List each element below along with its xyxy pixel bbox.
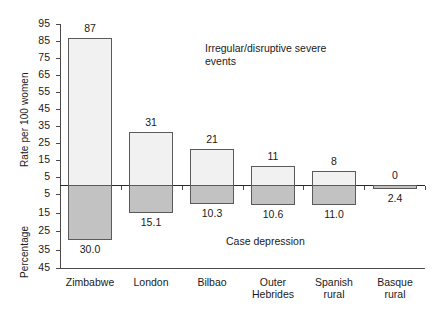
value-label-depression-0: 30.0 <box>60 244 120 255</box>
bar-depression-3 <box>251 185 295 205</box>
bar-rate-4 <box>312 171 356 186</box>
events-annotation: Irregular/disruptive severe events <box>205 42 380 68</box>
category-label-line: London <box>119 276 183 288</box>
bar-depression-1 <box>129 185 173 213</box>
bar-rate-2 <box>190 149 234 186</box>
x-tick-mark-0 <box>121 186 122 190</box>
category-label-3: OuterHebrides <box>241 276 305 300</box>
y-tick-label-top-15: 15 <box>28 154 50 165</box>
y-tick-label-bottom-15: 15 <box>28 207 50 218</box>
y-tick-label-bottom-25: 25 <box>28 225 50 236</box>
y-tick-label-bottom-45: 45 <box>28 262 50 273</box>
x-tick-mark-2 <box>243 186 244 190</box>
category-label-line: Spanish <box>302 276 366 288</box>
value-label-depression-2: 10.3 <box>182 208 242 219</box>
category-label-line: rural <box>363 288 427 300</box>
category-label-1: London <box>119 276 183 288</box>
value-label-rate-5: 0 <box>365 170 425 181</box>
category-label-line: Outer <box>241 276 305 288</box>
value-label-depression-5: 2.4 <box>365 193 425 204</box>
category-label-line: Basque <box>363 276 427 288</box>
category-label-2: Bilbao <box>180 276 244 288</box>
x-tick-mark-3 <box>303 186 304 190</box>
zero-baseline <box>60 185 425 186</box>
y-tick-label-bottom-5: 5 <box>28 188 50 199</box>
x-tick-mark-5 <box>425 186 426 190</box>
value-label-depression-1: 15.1 <box>121 217 181 228</box>
value-label-rate-1: 31 <box>121 117 181 128</box>
category-label-line: Zimbabwe <box>58 276 122 288</box>
value-label-rate-2: 21 <box>182 134 242 145</box>
y-tick-label-top-5: 5 <box>28 171 50 182</box>
bar-depression-2 <box>190 185 234 204</box>
bar-depression-0 <box>68 185 112 240</box>
value-label-rate-4: 8 <box>304 156 364 167</box>
category-label-line: rural <box>302 288 366 300</box>
bar-depression-4 <box>312 185 356 205</box>
x-axis-line <box>60 268 425 269</box>
x-tick-mark-1 <box>182 186 183 190</box>
bar-chart: Rate per 100 women Percentage 5152535455… <box>0 0 438 316</box>
y-tick-label-top-75: 75 <box>28 52 50 63</box>
depression-annotation: Case depression <box>226 235 356 248</box>
category-label-0: Zimbabwe <box>58 276 122 288</box>
bar-rate-3 <box>251 166 295 186</box>
y-tick-label-top-35: 35 <box>28 120 50 131</box>
value-label-depression-4: 11.0 <box>304 209 364 220</box>
y-axis-line <box>60 24 61 269</box>
y-tick-label-top-55: 55 <box>28 86 50 97</box>
y-tick-label-top-65: 65 <box>28 69 50 80</box>
value-label-rate-0: 87 <box>60 23 120 34</box>
y-tick-label-bottom-35: 35 <box>28 244 50 255</box>
category-label-5: Basquerural <box>363 276 427 300</box>
category-label-line: Bilbao <box>180 276 244 288</box>
y-tick-label-top-25: 25 <box>28 137 50 148</box>
x-tick-mark-4 <box>364 186 365 190</box>
bar-rate-0 <box>68 38 112 186</box>
bar-rate-1 <box>129 132 173 186</box>
y-tick-label-top-95: 95 <box>28 18 50 29</box>
y-tick-label-top-45: 45 <box>28 103 50 114</box>
y-tick-label-top-85: 85 <box>28 35 50 46</box>
category-label-line: Hebrides <box>241 288 305 300</box>
bar-depression-5 <box>373 185 417 189</box>
category-label-4: Spanishrural <box>302 276 366 300</box>
value-label-rate-3: 11 <box>243 151 303 162</box>
value-label-depression-3: 10.6 <box>243 209 303 220</box>
